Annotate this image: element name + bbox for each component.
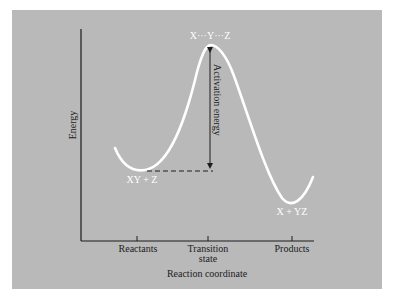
y-axis-label: Energy bbox=[67, 111, 78, 140]
reactants-species-label: XY + Z bbox=[127, 174, 158, 185]
energy-diagram: X···Y···Z XY + Z X + YZ Activation energ… bbox=[0, 0, 393, 302]
tick-label-products: Products bbox=[275, 243, 310, 254]
activation-energy-label: Activation energy bbox=[212, 64, 223, 136]
tick-label-reactants: Reactants bbox=[119, 243, 158, 254]
x-axis-label: Reaction coordinate bbox=[167, 268, 248, 279]
products-species-label: X + YZ bbox=[277, 206, 308, 217]
transition-state-label: X···Y···Z bbox=[190, 30, 231, 41]
tick-label-transition-line2: state bbox=[199, 253, 218, 264]
